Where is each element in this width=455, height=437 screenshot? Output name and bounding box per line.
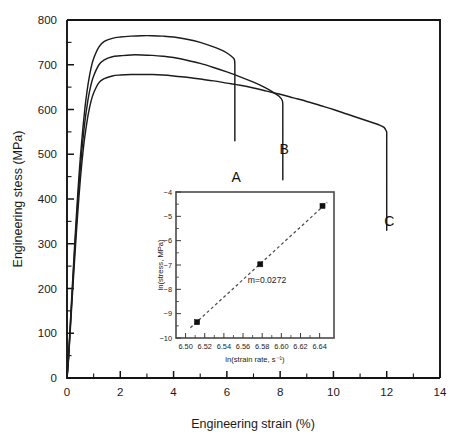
inset-y-axis-title: ln(stress, MPa) <box>156 239 165 291</box>
y-axis-title: Engineering stess (MPa) <box>11 131 25 268</box>
inset-x-tick-label: 6.54 <box>217 342 231 351</box>
x-tick-label: 10 <box>327 386 340 398</box>
inset-y-tick-label: −9 <box>164 309 172 318</box>
inset-x-axis-title: ln(strain rate, s⁻¹) <box>225 355 285 364</box>
x-tick-label: 12 <box>380 386 393 398</box>
inset-x-tick-label: 6.56 <box>236 342 250 351</box>
y-tick-label: 0 <box>51 372 57 384</box>
x-tick-label: 6 <box>224 386 230 398</box>
y-tick-label: 400 <box>38 193 57 205</box>
x-tick-label: 14 <box>434 386 447 398</box>
inset-plot: −10−9−8−7−6−5−4 6.506.526.546.566.586.60… <box>156 188 334 364</box>
y-tick-label: 200 <box>38 283 57 295</box>
stress-strain-chart: 0100200300400500600700800 02468101214 En… <box>0 0 455 437</box>
y-tick-label: 700 <box>38 59 57 71</box>
curve-label-b: B <box>279 141 288 157</box>
inset-data-point <box>258 262 263 267</box>
x-axis-title: Engineering strain (%) <box>191 417 315 431</box>
inset-y-tick-label: −4 <box>164 188 172 197</box>
inset-data-point <box>195 320 200 325</box>
figure-container: 0100200300400500600700800 02468101214 En… <box>0 0 455 437</box>
y-tick-label: 600 <box>38 104 57 116</box>
inset-x-tick-label: 6.62 <box>293 342 307 351</box>
curve-label-a: A <box>232 169 242 185</box>
y-tick-label: 100 <box>38 327 57 339</box>
inset-x-tick-label: 6.58 <box>255 342 269 351</box>
inset-frame <box>176 192 334 338</box>
slope-annotation: m=0.0272 <box>248 275 287 285</box>
x-tick-label: 0 <box>64 386 70 398</box>
y-tick-label: 500 <box>38 148 57 160</box>
x-tick-label: 8 <box>277 386 283 398</box>
inset-data-point <box>320 203 325 208</box>
inset-x-tick-label: 6.60 <box>274 342 288 351</box>
inset-x-tick-label: 6.50 <box>178 342 192 351</box>
inset-x-tick-label: 6.52 <box>198 342 212 351</box>
y-tick-label: 300 <box>38 238 57 250</box>
y-tick-label: 800 <box>38 14 57 26</box>
inset-y-tick-label: −5 <box>164 212 172 221</box>
inset-y-tick-label: −10 <box>159 334 172 343</box>
inset-x-tick-label: 6.64 <box>312 342 326 351</box>
x-tick-label: 2 <box>117 386 123 398</box>
curve-label-c: C <box>384 213 394 229</box>
x-tick-label: 4 <box>170 386 177 398</box>
